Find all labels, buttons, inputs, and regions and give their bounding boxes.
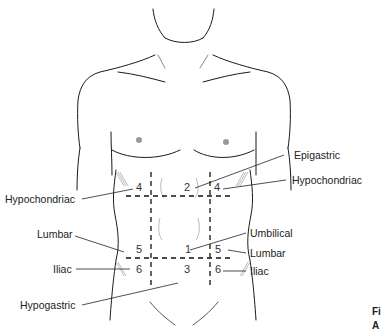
hatch-right-side [236, 172, 248, 186]
chin-line [165, 38, 203, 43]
label-hypochondriac-left: Hypochondriac [5, 194, 75, 205]
shoulder-right [213, 55, 290, 148]
region-number-epigastric: 2 [184, 182, 190, 193]
arm-left-inner [111, 132, 112, 175]
arm-left-outer [77, 148, 80, 190]
region-number-lumbar-right: 5 [215, 244, 221, 255]
region-number-iliac-right: 6 [215, 264, 221, 275]
shoulder-left [78, 55, 155, 148]
groin-left [150, 302, 175, 325]
label-hypochondriac-right: Hypochondriac [292, 175, 362, 186]
rectus-right-mid [196, 218, 199, 240]
leader-lumbar-left [75, 236, 124, 252]
torso-right [248, 170, 256, 320]
region-number-iliac-left: 6 [136, 264, 142, 275]
neck-outline-right [203, 9, 214, 38]
region-number-hypochondriac-right: 4 [214, 182, 220, 193]
neck-muscle-right [200, 55, 208, 68]
label-umbilical: Umbilical [250, 228, 293, 239]
region-number-hypogastric: 3 [184, 264, 190, 275]
label-epigastric: Epigastric [294, 150, 340, 161]
clavicle-right [203, 72, 250, 82]
figure-caption-fragment-line2: A [372, 321, 379, 331]
region-number-lumbar-left: 5 [136, 244, 142, 255]
neck-muscle-left [158, 55, 165, 68]
leader-lumbar-right [228, 250, 246, 253]
nipple-right [223, 139, 229, 145]
arm-right-outer [288, 148, 291, 190]
label-lumbar-right: Lumbar [250, 248, 286, 259]
nipple-left [136, 137, 142, 143]
label-iliac-left: Iliac [53, 264, 72, 275]
hatch-right-hip [240, 262, 250, 276]
label-iliac-right: Iliac [250, 266, 269, 277]
abdominal-regions-diagram [0, 0, 382, 332]
leader-hypogastric [82, 283, 178, 305]
label-lumbar-left: Lumbar [37, 229, 73, 240]
figure-caption-fragment-line1: Fi [372, 307, 381, 317]
rectus-left-mid [159, 218, 162, 240]
region-number-hypochondriac-left: 4 [136, 182, 142, 193]
hatch-left-side [116, 172, 128, 186]
leader-hypochondriac-right [223, 180, 286, 189]
leader-hypochondriac-left [82, 189, 133, 199]
clavicle-left [118, 72, 165, 82]
pectoral-left [112, 150, 180, 158]
neck-outline-left [153, 9, 165, 38]
region-number-umbilical: 1 [185, 244, 191, 255]
rectus-left-upper [161, 178, 164, 198]
groin-right [193, 302, 218, 325]
label-hypogastric: Hypogastric [20, 300, 75, 311]
pectoral-right [194, 150, 254, 158]
